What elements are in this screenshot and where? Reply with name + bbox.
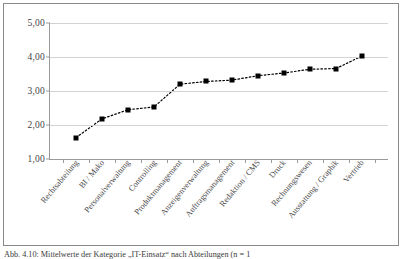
chart-frame: 1,002,003,004,005,00RechtsabteilungBI / … <box>3 3 399 246</box>
data-point-marker <box>308 67 313 72</box>
x-axis-category-label-text: Ausstattung / Graphik <box>286 158 340 220</box>
y-axis-tick <box>46 91 50 92</box>
figure-container: 1,002,003,004,005,00RechtsabteilungBI / … <box>0 0 404 259</box>
y-axis-tick-label: 1,00 <box>28 154 45 164</box>
x-axis-tick <box>219 159 220 163</box>
x-axis-category-label-text: Rechtsabteilung <box>39 158 80 205</box>
data-point-marker <box>230 78 235 83</box>
gridline <box>50 23 388 24</box>
y-axis-tick-label: 4,00 <box>28 52 45 62</box>
data-point-marker <box>334 66 339 71</box>
x-axis-category-label-text: Produktmanagement <box>133 158 184 216</box>
x-axis-tick <box>297 159 298 163</box>
data-point-marker <box>360 53 365 58</box>
figure-caption: Abb. 4.10: Mittelwerte der Kategorie „IT… <box>4 250 400 259</box>
x-axis-tick <box>115 159 116 163</box>
gridline <box>50 125 388 126</box>
x-axis-category-label-text: Personalverwaltung <box>83 158 132 214</box>
y-axis-tick <box>46 159 50 160</box>
data-point-marker <box>256 73 261 78</box>
y-axis-tick <box>46 57 50 58</box>
data-point-marker <box>100 116 105 121</box>
gridline <box>50 91 388 92</box>
data-point-marker <box>152 104 157 109</box>
x-axis-category-label-text: Anzeigenverwaltung <box>159 158 210 217</box>
y-axis-tick-label: 5,00 <box>28 18 45 28</box>
y-axis-tick <box>46 23 50 24</box>
x-axis-tick <box>245 159 246 163</box>
data-point-marker <box>74 135 79 140</box>
x-axis-category-label-text: Vertrieb <box>342 158 366 184</box>
x-axis-tick <box>271 159 272 163</box>
x-axis-tick <box>323 159 324 163</box>
data-point-marker <box>126 107 131 112</box>
x-axis-tick <box>141 159 142 163</box>
y-axis-tick <box>46 125 50 126</box>
y-axis-tick-label: 2,00 <box>28 120 45 130</box>
gridline <box>50 57 388 58</box>
data-point-marker <box>204 79 209 84</box>
x-axis-tick <box>63 159 64 163</box>
x-axis-tick <box>167 159 168 163</box>
plot-area: 1,002,003,004,005,00RechtsabteilungBI / … <box>49 23 388 160</box>
x-axis-tick <box>89 159 90 163</box>
x-axis-tick <box>349 159 350 163</box>
data-point-marker <box>178 82 183 87</box>
y-axis-tick-label: 3,00 <box>28 86 45 96</box>
x-axis-tick <box>375 159 376 163</box>
x-axis-tick <box>193 159 194 163</box>
data-point-marker <box>282 70 287 75</box>
